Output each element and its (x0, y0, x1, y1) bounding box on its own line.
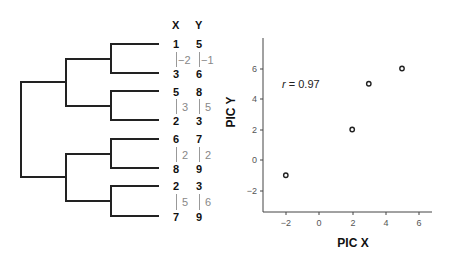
scatter-plot: −2 0 2 4 6 −2 0 2 4 6 PIC X PIC Y r = 0.… (224, 38, 432, 250)
tip-y-value: 3 (196, 180, 202, 192)
tip-y-value: 8 (196, 86, 202, 98)
x-tick-label: 6 (416, 218, 421, 228)
tip-x-value: 8 (173, 163, 179, 175)
contrast-y: 5 (205, 101, 211, 113)
y-tick-label: 4 (252, 94, 257, 104)
y-tick-label: 6 (252, 64, 257, 74)
y-tick-label: 0 (252, 155, 257, 165)
contrast-y: 6 (205, 196, 211, 208)
tip-x-value: 6 (173, 133, 179, 145)
tip-y-value: 3 (196, 115, 202, 127)
x-tick-label: 2 (350, 218, 355, 228)
tip-x-value: 2 (173, 115, 179, 127)
r-value: = 0.97 (286, 78, 320, 90)
tip-x-value: 3 (173, 68, 179, 80)
contrast-x: 2 (182, 149, 188, 161)
column-header-y: Y (195, 19, 203, 31)
y-axis-label: PIC Y (224, 96, 238, 127)
tip-y-value: 7 (196, 133, 202, 145)
tip-y-value: 9 (196, 163, 202, 175)
column-header-x: X (172, 19, 180, 31)
x-axis-label: PIC X (337, 236, 368, 250)
data-point (350, 127, 354, 131)
tip-x-value: 1 (173, 38, 179, 50)
tip-y-value: 6 (196, 68, 202, 80)
contrast-x: 3 (182, 101, 188, 113)
contrast-y: −1 (201, 54, 214, 66)
x-tick-label: 0 (316, 218, 321, 228)
contrast-y: 2 (205, 149, 211, 161)
tip-y-value: 5 (196, 38, 202, 50)
x-tick-label: 4 (383, 218, 388, 228)
data-point (284, 173, 288, 177)
tip-x-value: 2 (173, 180, 179, 192)
tip-y-value: 9 (196, 211, 202, 223)
data-point (400, 66, 404, 70)
contrast-x: 5 (182, 196, 188, 208)
phylogenetic-tree (21, 44, 158, 216)
contrast-x: −2 (178, 54, 191, 66)
tip-x-value: 5 (173, 86, 179, 98)
y-tick-label: 2 (252, 125, 257, 135)
tip-x-value: 7 (173, 211, 179, 223)
y-tick-label: −2 (247, 186, 257, 196)
correlation-annotation: r = 0.97 (282, 78, 320, 90)
figure: X Y 1 5 3 6 5 8 2 3 6 7 8 9 2 3 7 9 −2 −… (0, 0, 450, 261)
x-tick-label: −2 (281, 218, 291, 228)
data-point (367, 82, 371, 86)
